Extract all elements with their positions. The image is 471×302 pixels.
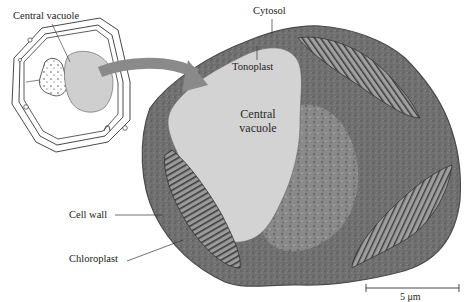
plant-cell-figure: Central vacuole Cytosol Tonoplast Centra…	[0, 0, 471, 302]
label-central-vacuole-line2: vacuole	[228, 121, 288, 135]
label-central-vacuole: Central vacuole	[228, 107, 288, 135]
label-cell-wall: Cell wall	[69, 210, 107, 221]
label-cytosol: Cytosol	[253, 6, 286, 17]
label-tonoplast: Tonoplast	[232, 62, 273, 73]
schematic-cell	[12, 18, 130, 152]
scale-bar-label: 5 μm	[400, 292, 421, 302]
label-chloroplast: Chloroplast	[69, 254, 118, 265]
label-schematic-central-vacuole: Central vacuole	[13, 11, 79, 22]
label-central-vacuole-line1: Central	[228, 107, 288, 121]
